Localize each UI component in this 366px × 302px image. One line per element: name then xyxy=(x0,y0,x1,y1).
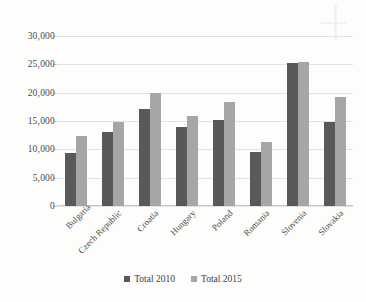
chart-legend: Total 2010Total 2015 xyxy=(0,274,366,284)
y-tick-label: 10,000 xyxy=(3,144,55,154)
bar xyxy=(324,122,335,206)
bar xyxy=(287,63,298,206)
gridline xyxy=(57,206,353,207)
bar xyxy=(250,152,261,206)
bar-group xyxy=(131,36,168,206)
bar xyxy=(65,153,76,206)
bar-group xyxy=(279,36,316,206)
legend-swatch-icon xyxy=(124,276,130,282)
x-tick-label: Croatia xyxy=(85,208,160,283)
bar xyxy=(150,93,161,206)
x-axis-category-labels: BulgariaCzech RepublicCroatiaHungaryPola… xyxy=(57,208,353,268)
bar xyxy=(102,132,113,206)
legend-item[interactable]: Total 2015 xyxy=(191,274,242,284)
legend-item[interactable]: Total 2010 xyxy=(124,274,175,284)
bar xyxy=(139,109,150,206)
bar xyxy=(213,120,224,206)
legend-label: Total 2010 xyxy=(134,274,175,284)
x-tick-label: Poland xyxy=(107,208,235,302)
bar xyxy=(187,116,198,206)
bar-group xyxy=(168,36,205,206)
legend-label: Total 2015 xyxy=(201,274,242,284)
scan-artifact xyxy=(334,4,337,40)
legend-swatch-icon xyxy=(191,276,197,282)
bar xyxy=(224,102,235,206)
bar-group xyxy=(316,36,353,206)
y-tick-label: 15,000 xyxy=(3,116,55,126)
x-tick-label: Bulgaria xyxy=(64,208,87,231)
y-tick-label: 0 xyxy=(3,201,55,211)
plot-area xyxy=(57,36,353,206)
bar-chart: 05,00010,00015,00020,00025,00030,000 Bul… xyxy=(0,0,366,302)
y-tick-label: 25,000 xyxy=(3,59,55,69)
y-tick-label: 20,000 xyxy=(3,88,55,98)
y-tick-label: 30,000 xyxy=(3,31,55,41)
bar xyxy=(176,127,187,206)
bar xyxy=(261,142,272,206)
bar xyxy=(335,97,346,206)
bar-group xyxy=(205,36,242,206)
bar-group xyxy=(57,36,94,206)
bar xyxy=(76,136,87,206)
bar xyxy=(298,62,309,207)
bar-group xyxy=(242,36,279,206)
bar-group xyxy=(94,36,131,206)
y-tick-label: 5,000 xyxy=(3,173,55,183)
x-tick-label: Slovakia xyxy=(139,208,345,302)
scan-artifact xyxy=(320,22,346,24)
bar-groups xyxy=(57,36,353,206)
bar xyxy=(113,122,124,206)
